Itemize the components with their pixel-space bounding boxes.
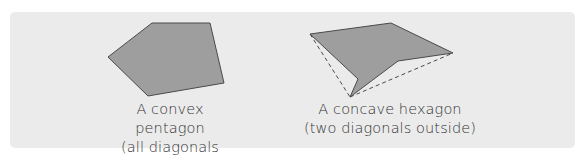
caption-note: (two diagonals outside) <box>300 119 480 138</box>
caption-title: A concave hexagon <box>300 100 480 119</box>
caption-title: A convex pentagon <box>100 100 240 138</box>
polygon-diagram <box>0 0 585 156</box>
convex-pentagon-caption: A convex pentagon (all diagonals inside) <box>100 100 240 156</box>
caption-note: (all diagonals inside) <box>100 138 240 156</box>
convex-pentagon-shape <box>108 23 224 96</box>
concave-hexagon-shape <box>310 23 453 97</box>
concave-hexagon-caption: A concave hexagon (two diagonals outside… <box>300 100 480 138</box>
